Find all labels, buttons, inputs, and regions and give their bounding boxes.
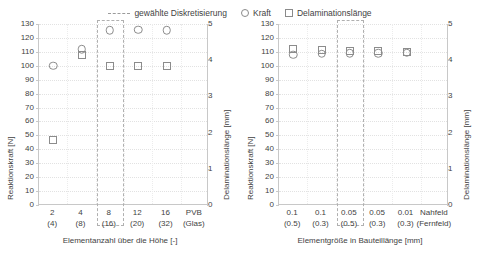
y-tick-label: 0: [270, 201, 274, 209]
x-tick-label: PVB(Glas): [183, 208, 205, 229]
data-point-delaminationslaenge: [78, 51, 86, 59]
y-tick-mark: [276, 80, 279, 81]
y-tick-label: 10: [25, 187, 34, 195]
y-tick-label: 70: [265, 104, 274, 112]
x-tick-secondary: (0.5): [284, 219, 300, 230]
data-point-delaminationslaenge: [49, 136, 57, 144]
legend-label-discretisation: gewählte Diskretisierung: [134, 8, 227, 18]
dashed-box-icon: [108, 13, 130, 14]
data-point-kraft: [134, 25, 143, 34]
y-tick-label: 50: [25, 131, 34, 139]
legend-item-kraft: Kraft: [241, 8, 271, 18]
y-tick-label: 60: [25, 117, 34, 125]
x-tick-label: 0.1(0.5): [284, 208, 300, 229]
y-tick-label: 120: [261, 34, 274, 42]
x-tick-label: 4(8): [76, 208, 86, 229]
y-tick-label: 70: [25, 104, 34, 112]
chart-figure: gewählte Diskretisierung Kraft Delaminat…: [0, 0, 480, 265]
y-tick-label: 40: [25, 145, 34, 153]
y2-tick-mark: [447, 169, 450, 170]
x-tick-secondary: (0.3): [312, 219, 328, 230]
y-tick-label: 80: [25, 90, 34, 98]
y2-tick-mark: [207, 169, 210, 170]
left-y2-tick-labels: 012345: [208, 24, 230, 204]
vertical-gridline: [307, 24, 308, 204]
y-tick-label: 100: [261, 62, 274, 70]
y-tick-mark: [36, 191, 39, 192]
x-tick-primary: 4: [78, 208, 82, 217]
data-point-delaminationslaenge: [106, 62, 114, 70]
x-tick-label: 8(16): [102, 208, 116, 229]
x-tick-primary: 0.01: [398, 208, 414, 217]
x-tick-label: 0.05(0.5): [341, 208, 357, 229]
x-tick-label: 0.01(0.3): [397, 208, 413, 229]
y-tick-label: 110: [261, 48, 274, 56]
y-tick-mark: [276, 52, 279, 53]
y-tick-label: 90: [25, 76, 34, 84]
y-tick-mark: [36, 205, 39, 206]
y-tick-label: 30: [265, 159, 274, 167]
data-point-delaminationslaenge: [346, 47, 354, 55]
y-tick-label: 10: [265, 187, 274, 195]
y2-tick-mark: [207, 205, 210, 206]
left-y-tick-labels: 0102030405060708090100110120130: [12, 24, 34, 204]
x-tick-secondary: (Fernfeld): [416, 219, 451, 230]
y-tick-mark: [276, 66, 279, 67]
data-point-delaminationslaenge: [163, 62, 171, 70]
y-tick-mark: [276, 94, 279, 95]
x-tick-secondary: (Glas): [183, 219, 205, 230]
y-tick-mark: [276, 191, 279, 192]
x-tick-primary: 0.05: [341, 208, 357, 217]
y-tick-mark: [36, 108, 39, 109]
chart-legend: gewählte Diskretisierung Kraft Delaminat…: [0, 4, 480, 22]
y-tick-label: 30: [25, 159, 34, 167]
x-tick-secondary: (20): [130, 219, 144, 230]
vertical-gridline: [67, 24, 68, 204]
legend-item-delaminationslaenge: Delaminationslänge: [285, 8, 372, 18]
y2-tick-mark: [207, 24, 210, 25]
x-tick-secondary: (16): [102, 219, 116, 230]
data-point-delaminationslaenge: [134, 62, 142, 70]
y-tick-label: 110: [21, 48, 34, 56]
x-tick-primary: 0.1: [287, 208, 298, 217]
y-tick-label: 50: [265, 131, 274, 139]
data-point-delaminationslaenge: [403, 48, 411, 56]
y-tick-mark: [36, 24, 39, 25]
y-tick-mark: [36, 135, 39, 136]
y2-tick-mark: [447, 96, 450, 97]
x-tick-label: 12(20): [130, 208, 144, 229]
y-tick-label: 130: [21, 20, 34, 28]
left-x-axis-title: Elementanzahl über die Höhe [-]: [0, 236, 240, 245]
y-tick-mark: [276, 108, 279, 109]
right-plot-area: [278, 24, 448, 205]
x-tick-label: Nahfeld(Fernfeld): [416, 208, 451, 229]
x-tick-secondary: (0.5): [341, 219, 357, 230]
x-tick-secondary: (0.3): [397, 219, 413, 230]
left-plot-area: [38, 24, 208, 205]
y-tick-mark: [36, 80, 39, 81]
y-tick-mark: [276, 121, 279, 122]
y-tick-label: 40: [265, 145, 274, 153]
circle-icon: [241, 9, 249, 17]
x-tick-primary: Nahfeld: [420, 208, 448, 217]
x-tick-primary: 0.05: [369, 208, 385, 217]
legend-label-delaminationslaenge: Delaminationslänge: [297, 8, 372, 18]
y-tick-mark: [36, 149, 39, 150]
data-point-kraft: [162, 26, 171, 35]
x-tick-label: 2(4): [47, 208, 57, 229]
data-point-delaminationslaenge: [318, 46, 326, 54]
x-tick-primary: 12: [133, 208, 142, 217]
x-tick-secondary: (32): [158, 219, 172, 230]
y-tick-label: 60: [265, 117, 274, 125]
data-point-delaminationslaenge: [289, 45, 297, 53]
legend-item-discretisation: gewählte Diskretisierung: [108, 8, 227, 18]
y-tick-mark: [36, 38, 39, 39]
vertical-gridline: [421, 24, 422, 204]
y-tick-label: 120: [21, 34, 34, 42]
x-tick-primary: 16: [161, 208, 170, 217]
x-tick-primary: 8: [107, 208, 111, 217]
y-tick-mark: [36, 177, 39, 178]
x-tick-secondary: (4): [47, 219, 57, 230]
selected-discretisation-highlight: [97, 20, 124, 226]
y-tick-mark: [36, 121, 39, 122]
